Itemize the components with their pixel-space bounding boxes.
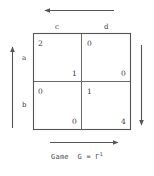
row-label-b: b — [22, 102, 26, 109]
column-label-d: d — [104, 24, 108, 31]
figure-lines — [0, 0, 154, 176]
cell-bd-row-payoff: 1 — [87, 88, 92, 96]
game-matrix-figure: c d a b 2 1 0 0 0 0 1 4 Game G = Γ1 — [0, 0, 154, 176]
column-label-c: c — [55, 24, 59, 31]
caption-prefix: Game — [51, 153, 69, 161]
cell-bc-row-payoff: 0 — [38, 88, 43, 96]
cell-ad-row-payoff: 0 — [87, 40, 92, 48]
figure-caption: Game G = Γ1 — [0, 153, 154, 161]
row-label-a: a — [22, 55, 26, 62]
cell-ad-column-payoff: 0 — [121, 70, 126, 78]
cell-bd-column-payoff: 4 — [121, 118, 126, 126]
cell-ac-column-payoff: 1 — [72, 70, 77, 78]
caption-superscript: 1 — [100, 151, 103, 157]
cell-bc-column-payoff: 0 — [72, 118, 77, 126]
cell-ac-row-payoff: 2 — [38, 40, 43, 48]
